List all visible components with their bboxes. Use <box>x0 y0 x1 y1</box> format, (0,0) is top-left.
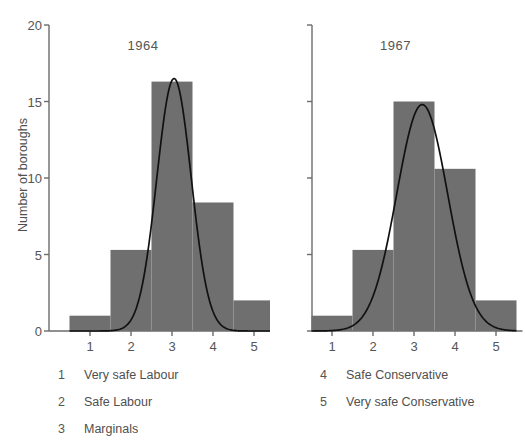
x-tick-label-4: 4 <box>445 340 465 353</box>
y-tick-label-5: 5 <box>16 249 42 262</box>
y-tick-label-0: 0 <box>16 325 42 338</box>
legend-item: 3 Marginals <box>58 422 179 447</box>
legend-label: Marginals <box>84 422 138 436</box>
histogram-bar <box>152 82 193 331</box>
histogram-bar <box>394 102 435 332</box>
legend-key: 5 <box>320 395 346 409</box>
panel-title-1967: 1967 <box>264 38 525 53</box>
legend-label: Very safe Labour <box>84 368 179 382</box>
x-tick-label-3: 3 <box>404 340 424 353</box>
figure-histograms-boroughs: 1964 Number of boroughs 20 15 10 5 0 1 2… <box>0 0 525 447</box>
y-tick-label-10: 10 <box>16 172 42 185</box>
x-tick-label-2: 2 <box>121 340 141 353</box>
legend-label: Safe Labour <box>84 395 152 409</box>
x-tick-label-4: 4 <box>203 340 223 353</box>
legend-item: 2 Safe Labour <box>58 395 179 422</box>
legend-right-column: 4 Safe Conservative 5 Very safe Conserva… <box>320 368 475 422</box>
x-tick-label-1: 1 <box>322 340 342 353</box>
legend-item: 1 Very safe Labour <box>58 368 179 395</box>
panel-1967: 1967 1 2 3 4 5 <box>262 0 525 360</box>
x-tick-label-3: 3 <box>162 340 182 353</box>
legend-item: 4 Safe Conservative <box>320 368 475 395</box>
legend-key: 4 <box>320 368 346 382</box>
plot-area-1967 <box>262 0 525 360</box>
legend-label: Safe Conservative <box>346 368 448 382</box>
panel-title-1964: 1964 <box>8 38 278 53</box>
histogram-bar <box>353 250 394 331</box>
x-tick-label-2: 2 <box>363 340 383 353</box>
x-tick-label-5: 5 <box>486 340 506 353</box>
x-tick-label-5: 5 <box>244 340 264 353</box>
y-tick-label-15: 15 <box>16 96 42 109</box>
legend-key: 2 <box>58 395 84 409</box>
legend-left-column: 1 Very safe Labour 2 Safe Labour 3 Margi… <box>58 368 179 447</box>
x-tick-label-1: 1 <box>80 340 100 353</box>
legend-label: Very safe Conservative <box>346 395 475 409</box>
legend-key: 3 <box>58 422 84 436</box>
histogram-bar <box>435 169 476 331</box>
panel-1964: 1964 Number of boroughs 20 15 10 5 0 1 2… <box>0 0 270 360</box>
legend-key: 1 <box>58 368 84 382</box>
y-tick-label-20: 20 <box>16 19 42 32</box>
histogram-bar <box>70 316 111 331</box>
legend-item: 5 Very safe Conservative <box>320 395 475 422</box>
